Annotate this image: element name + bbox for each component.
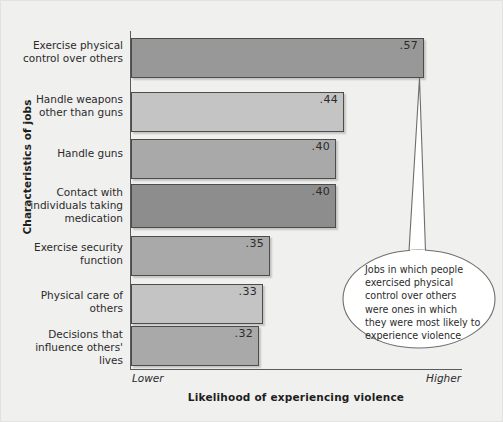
category-label-group: Exercise physical control over others Ha… xyxy=(9,1,123,422)
category-label-line: others xyxy=(11,302,123,315)
bar-row: .40 xyxy=(131,184,336,228)
category-label: Decisions that influence others' lives xyxy=(11,328,123,367)
category-label-line: Physical care of xyxy=(11,289,123,302)
callout-ellipse xyxy=(343,250,495,348)
bar-row: .33 xyxy=(131,284,263,324)
x-axis-line xyxy=(130,369,462,370)
bar-exercise-physical-control[interactable] xyxy=(131,38,424,78)
category-label-line: Exercise physical xyxy=(11,39,123,52)
category-label: Contact with individuals taking medicati… xyxy=(11,186,123,225)
category-label-line: control over others xyxy=(11,52,123,65)
bar-row: .40 xyxy=(131,139,336,179)
callout-tail xyxy=(409,78,426,251)
category-label-line: Handle weapons xyxy=(11,93,123,106)
bar-value-label: .35 xyxy=(246,238,264,250)
category-label-line: influence others' xyxy=(11,341,123,354)
bar-value-label: .57 xyxy=(400,40,418,52)
category-label: Handle weapons other than guns xyxy=(11,93,123,119)
x-axis-high-label: Higher xyxy=(426,372,461,384)
bar-value-label: .44 xyxy=(320,94,338,106)
x-axis-low-label: Lower xyxy=(132,372,164,384)
bar-row: .32 xyxy=(131,326,259,366)
category-label-line: Exercise security xyxy=(11,241,123,254)
bar-value-label: .40 xyxy=(312,186,330,198)
callout-annotation: Jobs in which people exercised physical … xyxy=(341,71,503,356)
category-label: Exercise security function xyxy=(11,241,123,267)
bar-row: .57 xyxy=(131,38,424,78)
bar-handle-guns[interactable] xyxy=(131,139,336,179)
bar-row: .35 xyxy=(131,236,270,276)
bar-contact-individuals-medication[interactable] xyxy=(131,184,336,228)
category-label-line: function xyxy=(11,254,123,267)
bar-value-label: .32 xyxy=(235,328,253,340)
category-label: Physical care of others xyxy=(11,289,123,315)
category-label-line: Contact with xyxy=(11,186,123,199)
category-label-line: medication xyxy=(11,212,123,225)
bar-value-label: .40 xyxy=(312,141,330,153)
category-label-line: Handle guns xyxy=(11,147,123,160)
chart-figure: Characteristics of jobs Exercise physica… xyxy=(0,0,503,422)
callout-text: Jobs in which people exercised physical … xyxy=(365,263,481,342)
category-label-line: individuals taking xyxy=(11,199,123,212)
category-label-line: Decisions that xyxy=(11,328,123,341)
bar-row: .44 xyxy=(131,92,344,132)
bar-handle-weapons[interactable] xyxy=(131,92,344,132)
callout-shape xyxy=(341,71,503,356)
category-label-line: other than guns xyxy=(11,106,123,119)
callout-seam-mask xyxy=(409,250,426,257)
x-axis-title: Likelihood of experiencing violence xyxy=(131,391,461,403)
category-label: Exercise physical control over others xyxy=(11,39,123,65)
category-label: Handle guns xyxy=(11,147,123,160)
category-label-line: lives xyxy=(11,354,123,367)
bar-value-label: .33 xyxy=(239,286,257,298)
